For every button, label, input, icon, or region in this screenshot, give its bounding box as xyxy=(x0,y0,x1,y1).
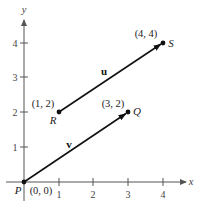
y-tick-label-3: 3 xyxy=(13,72,18,83)
y-tick-label-4: 4 xyxy=(13,38,18,49)
point-q-coords: (3, 2) xyxy=(102,98,125,110)
coordinate-plane: 1 2 3 4 1 2 3 4 x y u v (1, 2) (4, 4) (3… xyxy=(0,0,199,209)
point-q-name: Q xyxy=(133,105,141,117)
point-r xyxy=(57,110,62,115)
x-tick-label-2: 2 xyxy=(91,189,96,200)
x-tick-label-4: 4 xyxy=(161,189,166,200)
y-tick-label-1: 1 xyxy=(13,142,18,153)
vector-v-label: v xyxy=(66,138,72,150)
point-s xyxy=(161,41,166,46)
point-p-name: P xyxy=(14,184,22,196)
point-q xyxy=(126,110,131,115)
point-s-coords: (4, 4) xyxy=(135,28,158,40)
point-p-coords: (0, 0) xyxy=(30,185,53,197)
x-axis-label: x xyxy=(188,176,194,187)
x-tick-label-1: 1 xyxy=(57,189,62,200)
y-axis-label: y xyxy=(21,4,27,15)
point-r-name: R xyxy=(49,114,57,126)
vector-v xyxy=(24,114,126,183)
vector-u-label: u xyxy=(101,65,107,77)
point-s-name: S xyxy=(168,37,174,49)
y-tick-label-2: 2 xyxy=(13,107,18,118)
point-p xyxy=(22,180,27,185)
point-r-coords: (1, 2) xyxy=(32,98,55,110)
x-tick-label-3: 3 xyxy=(126,189,131,200)
